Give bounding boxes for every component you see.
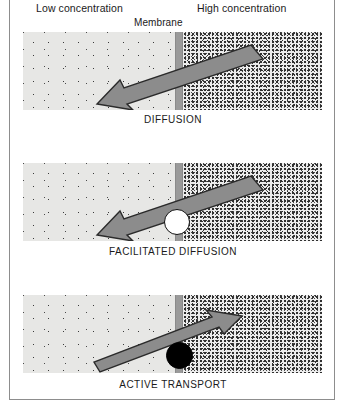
panel-active-transport bbox=[23, 295, 322, 373]
membrane-label: Membrane bbox=[134, 17, 183, 28]
membrane-transport-figure: Low concentration High concentration Mem… bbox=[0, 0, 346, 408]
carrier-protein-white-circle bbox=[164, 209, 190, 235]
diffusion-arrow-icon bbox=[23, 32, 322, 110]
caption-diffusion: DIFFUSION bbox=[0, 114, 346, 125]
panel-facilitated-diffusion bbox=[23, 163, 322, 241]
low-concentration-label: Low concentration bbox=[36, 2, 123, 14]
high-concentration-label: High concentration bbox=[197, 2, 286, 14]
carrier-protein-black-circle bbox=[166, 342, 193, 369]
panel-diffusion bbox=[23, 32, 322, 110]
caption-facilitated-diffusion: FACILITATED DIFFUSION bbox=[0, 246, 346, 257]
caption-active-transport: ACTIVE TRANSPORT bbox=[0, 379, 346, 390]
